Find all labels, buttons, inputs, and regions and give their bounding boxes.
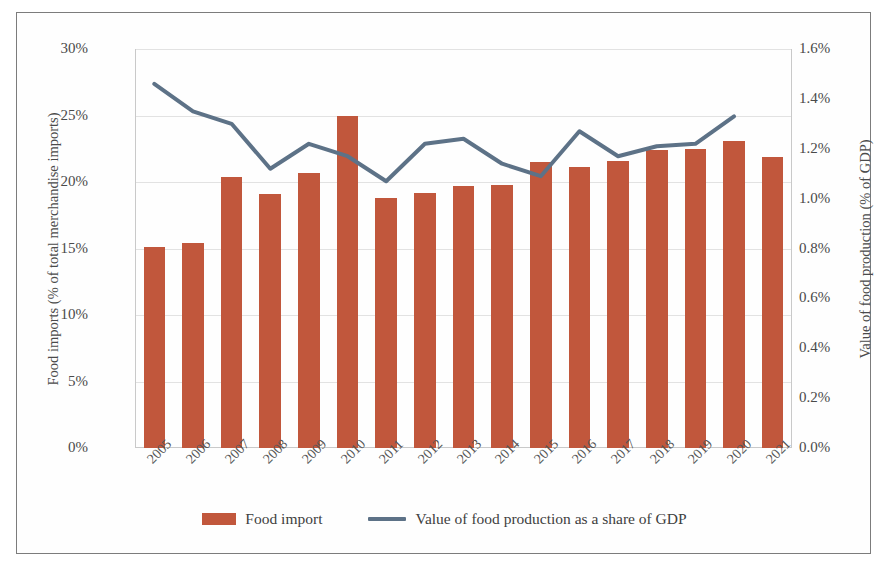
right-axis-tick-label: 0.0% (799, 440, 869, 455)
left-axis-tick-label: 30% (28, 41, 88, 56)
chart-frame: Food imports (% of total merchandise imp… (16, 12, 871, 554)
legend-line-icon (368, 517, 406, 521)
right-axis-tick-label: 1.4% (799, 91, 869, 106)
right-axis-tick-label: 0.8% (799, 241, 869, 256)
chart-area: Food imports (% of total merchandise imp… (17, 13, 872, 555)
legend-item-1[interactable]: Food import (202, 510, 322, 528)
right-axis-tick-label: 0.6% (799, 290, 869, 305)
line-series (135, 49, 792, 448)
left-axis-tick-label: 25% (28, 108, 88, 123)
right-axis-tick-label: 1.2% (799, 141, 869, 156)
legend-item-2[interactable]: Value of food production as a share of G… (368, 510, 686, 528)
left-axis-tick-label: 20% (28, 174, 88, 189)
legend: Food importValue of food production as a… (17, 510, 872, 528)
right-axis-tick-label: 0.2% (799, 390, 869, 405)
right-axis-tick-label: 1.6% (799, 41, 869, 56)
right-axis-tick-label: 1.0% (799, 191, 869, 206)
legend-label: Food import (245, 510, 322, 528)
left-axis-tick-label: 15% (28, 241, 88, 256)
legend-square-icon (202, 513, 236, 525)
left-axis-tick-label: 0% (28, 440, 88, 455)
line-path (154, 84, 734, 181)
plot-region (135, 49, 792, 448)
legend-label: Value of food production as a share of G… (415, 510, 686, 528)
left-axis-tick-label: 10% (28, 307, 88, 322)
left-axis-tick-label: 5% (28, 374, 88, 389)
right-axis-tick-label: 0.4% (799, 340, 869, 355)
